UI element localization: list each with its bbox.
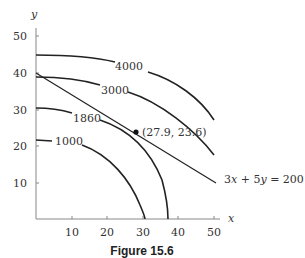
curve-label-3000: 3000 <box>101 84 129 97</box>
chart: 10 20 30 40 50 50 40 30 20 10 y x 4000 3… <box>0 0 305 258</box>
level-curve-1860 <box>36 108 168 219</box>
curve-label-4000: 4000 <box>115 60 143 73</box>
figure-caption: Figure 15.6 <box>110 244 174 258</box>
point-label: (27.9, 23.6) <box>142 126 207 139</box>
curve-label-1000: 1000 <box>55 135 83 148</box>
x-tick-label: 50 <box>207 226 221 239</box>
y-tick-label: 50 <box>13 30 27 43</box>
constraint-label: 3x + 5y = 200 <box>224 173 304 186</box>
x-tick-label: 40 <box>171 226 185 239</box>
y-axis-label: y <box>30 8 38 21</box>
x-tick-label: 30 <box>136 226 150 239</box>
optimum-point <box>133 129 138 134</box>
y-tick-label: 30 <box>13 104 27 117</box>
y-tick-label: 40 <box>13 67 27 80</box>
level-curve-1000 <box>36 140 145 219</box>
x-tick-label: 10 <box>65 226 79 239</box>
x-tick-label: 20 <box>100 226 114 239</box>
y-tick-label: 10 <box>13 177 27 190</box>
x-axis-label: x <box>228 212 235 225</box>
y-tick-label: 20 <box>13 140 27 153</box>
curve-label-1860: 1860 <box>73 112 101 125</box>
